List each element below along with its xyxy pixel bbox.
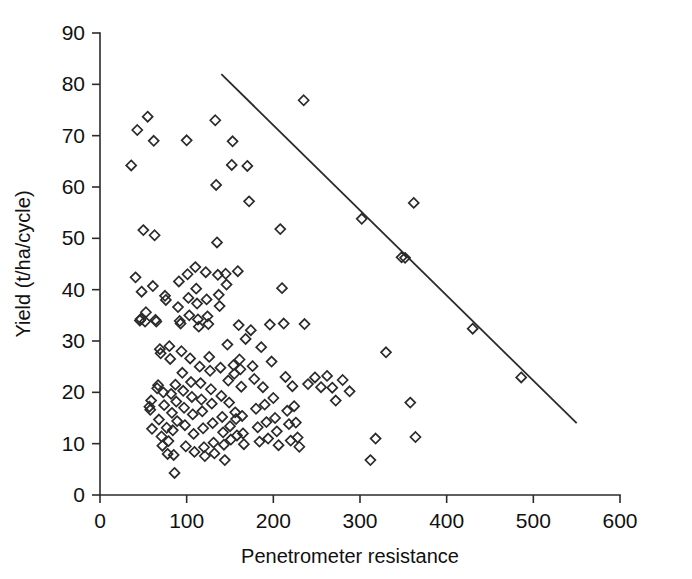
data-point-marker [210,115,220,125]
data-point-marker [217,412,227,422]
y-axis-tick-label: 40 [62,278,85,301]
data-point-marker [205,366,215,376]
boundary-fit-line [221,74,576,423]
data-point-marker [268,393,278,403]
data-point-marker [188,409,198,419]
data-point-marker [236,382,246,392]
data-point-marker [201,267,211,277]
data-point-marker [170,380,180,390]
data-point-marker [277,283,287,293]
data-point-marker [179,403,189,413]
data-point-marker [316,382,326,392]
data-point-marker [147,424,157,434]
x-axis-tick-label: 0 [94,509,106,532]
data-point-marker [178,386,188,396]
data-point-marker [300,319,310,329]
y-axis-tick-label: 30 [62,329,85,352]
data-point-marker [246,325,256,335]
data-point-marker [186,377,196,387]
data-point-marker [327,383,337,393]
data-point-marker [181,441,191,451]
x-axis-tick-label: 500 [516,509,551,532]
data-point-marker [405,398,415,408]
x-axis-tick-label: 300 [342,509,377,532]
data-point-marker [212,237,222,247]
data-point-marker [371,434,381,444]
data-point-marker [148,281,158,291]
data-point-marker [157,441,167,451]
data-point-marker [253,422,263,432]
x-axis-tick-label: 600 [602,509,637,532]
data-point-marker [248,361,258,371]
data-point-marker [196,378,206,388]
data-point-marker [165,354,175,364]
data-point-marker [209,438,219,448]
data-point-marker [185,353,195,363]
y-axis-tick-label: 50 [62,226,85,249]
data-point-marker [164,341,174,351]
data-point-marker [159,400,169,410]
y-axis-tick-label: 70 [62,124,85,147]
data-point-marker [267,357,277,367]
data-point-marker [208,418,218,428]
data-point-marker [154,415,164,425]
data-point-marker [167,408,177,418]
chart-figure: 01020304050607080900100200300400500600Pe… [0,0,692,579]
data-point-marker [222,280,232,290]
data-point-marker [198,423,208,433]
data-point-marker [280,372,290,382]
data-point-marker [258,382,268,392]
data-point-marker [274,440,284,450]
y-axis-tick-label: 60 [62,175,85,198]
data-point-marker [365,455,375,465]
data-point-marker [256,342,266,352]
y-axis-tick-label: 20 [62,380,85,403]
scatter-plot-svg: 01020304050607080900100200300400500600Pe… [0,0,692,579]
data-point-marker [138,225,148,235]
x-axis-title: Penetrometer resistance [241,545,459,567]
data-points-group [126,95,526,478]
data-point-marker [244,196,254,206]
data-point-marker [249,374,259,384]
x-axis-tick-label: 200 [256,509,291,532]
data-point-marker [303,379,313,389]
y-axis-title: Yield (t/ha/cycle) [12,190,34,337]
data-point-marker [177,368,187,378]
data-point-marker [189,429,199,439]
data-point-marker [187,392,197,402]
data-point-marker [242,161,252,171]
data-point-marker [272,426,282,436]
data-point-marker [345,386,355,396]
data-point-marker [516,372,526,382]
x-axis-tick-label: 100 [169,509,204,532]
data-point-marker [331,396,341,406]
data-point-marker [176,346,186,356]
data-point-marker [220,455,230,465]
data-point-marker [215,363,225,373]
data-point-marker [211,180,221,190]
data-point-marker [233,266,243,276]
y-axis-tick-label: 90 [62,21,85,44]
data-point-marker [195,362,205,372]
data-point-marker [126,160,136,170]
data-point-marker [207,399,217,409]
data-point-marker [209,448,219,458]
data-point-marker [310,372,320,382]
data-point-marker [137,287,147,297]
data-point-marker [202,294,212,304]
y-axis-tick-label: 0 [73,483,85,506]
data-point-marker [216,391,226,401]
y-axis-tick-label: 80 [62,72,85,95]
data-point-marker [150,230,160,240]
data-point-marker [241,334,251,344]
data-point-marker [174,276,184,286]
data-point-marker [183,269,193,279]
data-point-marker [227,160,237,170]
data-point-marker [381,347,391,357]
data-point-marker [234,320,244,330]
y-axis-tick-label: 10 [62,432,85,455]
data-point-marker [338,375,348,385]
data-point-marker [224,398,234,408]
data-point-marker [183,293,193,303]
data-point-marker [222,340,232,350]
